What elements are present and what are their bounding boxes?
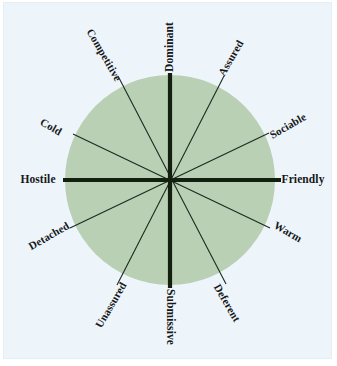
major-axis-lines [63,73,281,288]
circumplex-figure: Dominant Assured Sociable Friendly Warm … [0,0,337,366]
label-submissive: Submissive [164,289,176,345]
label-dominant: Dominant [164,22,176,72]
label-friendly: Friendly [282,174,325,186]
label-hostile: Hostile [20,174,55,186]
